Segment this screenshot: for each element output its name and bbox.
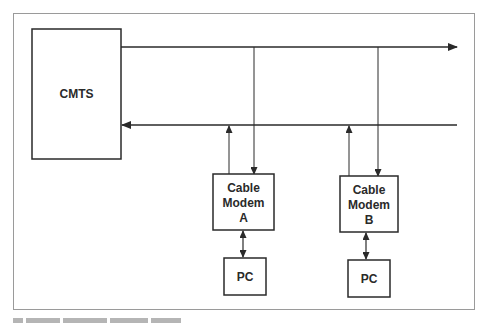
pc-a-label: PC: [237, 270, 254, 284]
pc-b-node: PC: [348, 260, 390, 297]
modem-a-line3: A: [239, 211, 248, 225]
cable-modem-a-node: Cable Modem A: [213, 174, 274, 230]
cmts-node: CMTS: [32, 29, 121, 159]
cmts-label: CMTS: [60, 87, 94, 101]
cable-network-diagram: CMTS Cable Modem A Cable Modem B PC PC: [0, 0, 491, 323]
cable-modem-b-node: Cable Modem B: [340, 176, 398, 232]
cropped-caption: [13, 318, 313, 323]
modem-b-line1: Cable: [353, 183, 386, 197]
modem-a-line1: Cable: [227, 181, 260, 195]
modem-b-line2: Modem: [348, 198, 390, 212]
modem-a-line2: Modem: [223, 196, 265, 210]
modem-b-line3: B: [365, 213, 374, 227]
pc-a-node: PC: [224, 258, 266, 295]
pc-b-label: PC: [361, 272, 378, 286]
